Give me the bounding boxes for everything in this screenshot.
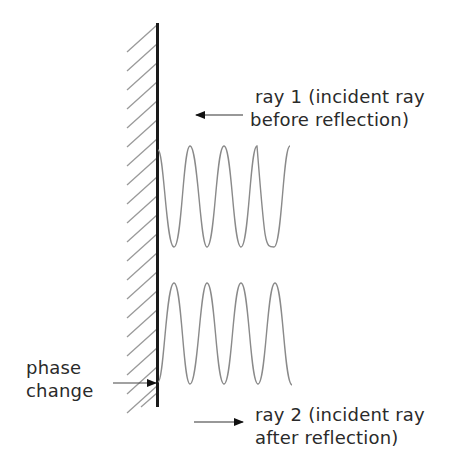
ray2-label-line1: ray 2 (incident ray <box>255 403 425 426</box>
reflection-diagram: ray 1 (incident ray before reflection) r… <box>0 0 469 473</box>
ray1-label: ray 1 (incident ray before reflection) <box>255 85 425 131</box>
phase-label-line2: change <box>26 379 93 402</box>
phase-label-line1: phase <box>26 356 93 379</box>
ray2-label: ray 2 (incident ray after reflection) <box>255 403 425 449</box>
wall-hatching <box>127 25 157 413</box>
ray2-label-line2: after reflection) <box>255 426 425 449</box>
phase-change-label: phase change <box>26 356 93 402</box>
wave-after-reflection <box>158 283 292 385</box>
ray1-label-line1: ray 1 (incident ray <box>255 85 425 108</box>
ray1-label-line2: before reflection) <box>250 108 425 131</box>
wave-incident-before <box>158 146 290 247</box>
